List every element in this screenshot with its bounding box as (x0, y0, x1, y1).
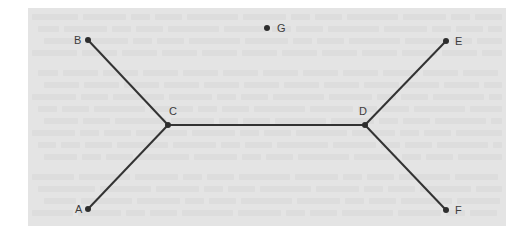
node-label: D (359, 105, 367, 117)
node-dot-icon (264, 25, 270, 31)
node-dot-icon (85, 206, 91, 212)
node-dot-icon (443, 207, 449, 213)
edge-a-c (88, 125, 168, 209)
node-label: A (75, 203, 83, 215)
node-b: B (74, 34, 91, 46)
node-a: A (75, 203, 91, 215)
node-label: G (277, 22, 286, 34)
diagram-figure: ABCDEFG (0, 0, 528, 232)
node-label: E (455, 35, 462, 47)
edge-b-c (88, 40, 168, 125)
node-dot-icon (85, 37, 91, 43)
edge-d-f (365, 125, 446, 210)
node-dot-icon (165, 122, 171, 128)
edge-d-e (365, 41, 446, 125)
node-f: F (443, 204, 462, 216)
edge-layer (88, 40, 446, 210)
node-layer: ABCDEFG (74, 22, 462, 216)
node-g: G (264, 22, 286, 34)
node-dot-icon (362, 122, 368, 128)
node-label: B (74, 34, 81, 46)
node-label: F (455, 204, 462, 216)
graph-canvas: ABCDEFG (0, 0, 528, 232)
node-label: C (169, 105, 177, 117)
node-dot-icon (443, 38, 449, 44)
node-e: E (443, 35, 462, 47)
